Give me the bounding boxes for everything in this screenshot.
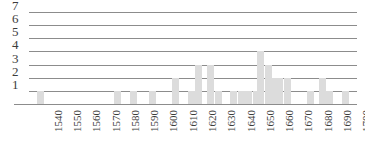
x-tick-label-1570: 1570 — [97, 87, 108, 127]
y-tick-label-5: 5 — [12, 25, 28, 38]
x-axis-tick-labels: 1540155015601570158015901600161016201630… — [29, 105, 357, 148]
bar-chart: 1234567 15401550156015701580159016001610… — [0, 0, 365, 148]
x-tick-label-1670: 1670 — [289, 87, 300, 127]
x-tick-label-1650: 1650 — [251, 87, 262, 127]
y-tick-label-6: 6 — [12, 12, 28, 25]
y-tick-label-2: 2 — [12, 65, 28, 78]
x-tick-label-1540: 1540 — [39, 87, 50, 127]
x-tick-label-1620: 1620 — [193, 87, 204, 127]
x-tick-label-1640: 1640 — [232, 87, 243, 127]
x-tick-label-1590: 1590 — [135, 87, 146, 127]
x-tick-label-1630: 1630 — [212, 87, 223, 127]
y-tick-label-3: 3 — [12, 52, 28, 65]
x-tick-label-1680: 1680 — [309, 87, 320, 127]
x-tick-label-1560: 1560 — [77, 87, 88, 127]
y-tick-label-7: 7 — [12, 0, 28, 12]
x-tick-label-1580: 1580 — [116, 87, 127, 127]
x-tick-label-1600: 1600 — [154, 87, 165, 127]
x-tick-label-1610: 1610 — [174, 87, 185, 127]
x-tick-label-1690: 1690 — [328, 87, 339, 127]
x-tick-label-1700: 1700 — [347, 87, 358, 127]
y-tick-label-1: 1 — [12, 78, 28, 91]
x-tick-label-1550: 1550 — [58, 87, 69, 127]
y-tick-label-4: 4 — [12, 38, 28, 51]
x-tick-label-1660: 1660 — [270, 87, 281, 127]
